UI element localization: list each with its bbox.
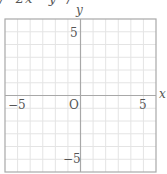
y-tick-label-neg5: −5 <box>63 153 81 165</box>
y-tick-label-pos5: 5 <box>70 27 78 39</box>
x-tick-label-neg5: −5 <box>8 99 26 111</box>
y-axis-label: y <box>76 4 83 16</box>
coordinate-grid <box>0 0 167 174</box>
origin-label: O <box>69 99 79 111</box>
x-axis-label: x <box>159 88 166 100</box>
x-tick-label-pos5: 5 <box>139 99 147 111</box>
